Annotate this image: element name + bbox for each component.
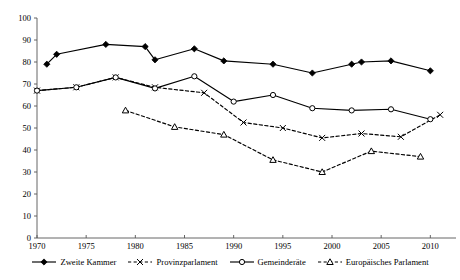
filled-diamond-marker-icon bbox=[349, 61, 355, 67]
open-triangle-marker-icon bbox=[171, 124, 177, 130]
chart-container: 0102030405060708090100197019751980198519… bbox=[0, 0, 460, 280]
y-axis-tick-label: 40 bbox=[23, 145, 32, 155]
legend-item-label: Gemeinderäte bbox=[258, 258, 306, 267]
x-axis-tick-label: 1990 bbox=[225, 241, 242, 251]
filled-diamond-marker-icon bbox=[41, 259, 47, 265]
legend-item-label: Zweite Kammer bbox=[60, 258, 116, 267]
open-circle-marker-icon bbox=[192, 74, 197, 79]
open-triangle-marker-icon bbox=[317, 256, 343, 268]
open-circle-marker-icon bbox=[388, 107, 393, 112]
open-triangle-marker-icon bbox=[270, 157, 276, 163]
y-axis-tick-label: 60 bbox=[23, 101, 32, 111]
filled-diamond-marker-icon bbox=[309, 70, 315, 76]
x-axis-tick-label: 1975 bbox=[78, 241, 95, 251]
filled-diamond-marker-icon bbox=[103, 41, 109, 47]
open-circle-marker-icon bbox=[349, 108, 354, 113]
y-axis-tick-label: 70 bbox=[23, 79, 32, 89]
open-triangle-marker-icon bbox=[368, 148, 374, 154]
y-axis-tick-label: 30 bbox=[23, 167, 32, 177]
filled-diamond-marker-icon bbox=[191, 46, 197, 52]
legend-item-label: Europäisches Parlament bbox=[346, 258, 429, 267]
y-axis-tick-label: 20 bbox=[23, 189, 32, 199]
chart-series-zweite-kammer bbox=[44, 41, 434, 76]
cross-x-marker-icon bbox=[127, 256, 153, 268]
series-line bbox=[47, 44, 431, 73]
legend-item-gemeinderäte: Gemeinderäte bbox=[229, 256, 306, 268]
open-circle-marker-icon bbox=[113, 75, 118, 80]
y-axis-tick-label: 90 bbox=[23, 35, 32, 45]
legend-item-provinzparlament: Provinzparlament bbox=[127, 256, 217, 268]
open-circle-marker-icon bbox=[231, 99, 236, 104]
open-circle-marker-icon bbox=[270, 92, 275, 97]
chart-series-gemeinder-te bbox=[34, 74, 433, 122]
legend-item-label: Provinzparlament bbox=[156, 258, 217, 267]
filled-diamond-marker-icon bbox=[427, 68, 433, 74]
chart-series-europ-isches-parlament bbox=[122, 107, 423, 174]
series-line bbox=[37, 76, 430, 119]
filled-diamond-marker-icon bbox=[358, 59, 364, 65]
filled-diamond-marker-icon bbox=[221, 58, 227, 64]
chart-legend: Zweite KammerProvinzparlamentGemeinderät… bbox=[0, 256, 460, 268]
open-circle-marker-icon bbox=[34, 88, 39, 93]
x-axis-tick-label: 1970 bbox=[29, 241, 46, 251]
x-axis-tick-label: 2000 bbox=[324, 241, 341, 251]
open-circle-marker-icon bbox=[310, 106, 315, 111]
legend-item-zweite-kammer: Zweite Kammer bbox=[31, 256, 116, 268]
series-line bbox=[37, 77, 440, 137]
y-axis-tick-label: 80 bbox=[23, 57, 32, 67]
open-circle-marker-icon bbox=[239, 259, 244, 264]
legend-item-europäisches-parlament: Europäisches Parlament bbox=[317, 256, 429, 268]
filled-diamond-marker-icon bbox=[31, 256, 57, 268]
x-axis-tick-label: 1980 bbox=[127, 241, 144, 251]
open-triangle-marker-icon bbox=[221, 131, 227, 137]
open-circle-marker-icon bbox=[428, 117, 433, 122]
y-axis-tick-label: 10 bbox=[23, 211, 32, 221]
filled-diamond-marker-icon bbox=[270, 61, 276, 67]
open-circle-marker-icon bbox=[152, 86, 157, 91]
open-circle-marker-icon bbox=[229, 256, 255, 268]
filled-diamond-marker-icon bbox=[388, 58, 394, 64]
chart-series-provinzparlament bbox=[34, 74, 443, 140]
y-axis-tick-label: 50 bbox=[23, 123, 32, 133]
open-triangle-marker-icon bbox=[122, 107, 128, 113]
x-axis-tick-label: 1995 bbox=[274, 241, 291, 251]
y-axis-tick-label: 100 bbox=[18, 13, 31, 23]
x-axis-tick-label: 2005 bbox=[373, 241, 390, 251]
open-circle-marker-icon bbox=[74, 85, 79, 90]
x-axis-tick-label: 1985 bbox=[176, 241, 193, 251]
line-chart-plot: 0102030405060708090100197019751980198519… bbox=[0, 0, 460, 280]
x-axis-tick-label: 2010 bbox=[422, 241, 439, 251]
